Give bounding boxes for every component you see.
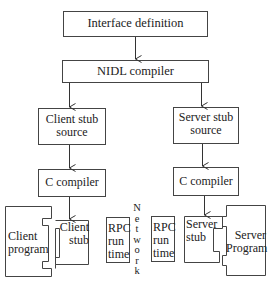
network-letter: t (132, 224, 142, 235)
server-c-compiler-label: C compiler (173, 175, 239, 188)
interface-definition-label: Interface definition (63, 17, 208, 30)
label-line: Program (226, 242, 266, 255)
client-stub-source-label: Client stub source (38, 113, 106, 139)
network-label: N e t w o r k (132, 203, 142, 277)
label-line: program (8, 243, 48, 256)
label-line: time (108, 248, 130, 261)
server-stub-source-label: Server stub source (173, 111, 239, 137)
server-stub-label: Server stub (186, 218, 222, 244)
server-rpc-runtime-label: RPC run time (153, 221, 175, 260)
network-letter: k (132, 266, 142, 277)
network-letter: o (132, 245, 142, 256)
server-program-label: Server Program (226, 229, 266, 255)
client-rpc-runtime-label: RPC run time (108, 222, 130, 261)
client-c-compiler-label: C compiler (38, 176, 106, 189)
client-stub-label: Client stub (58, 221, 89, 247)
client-program-label: Client program (8, 230, 48, 256)
network-letter: N (132, 203, 142, 214)
label-line: stub (58, 234, 89, 247)
nidl-compiler-label: NIDL compiler (62, 65, 209, 78)
label-line: stub (186, 231, 222, 244)
label-line: source (38, 126, 106, 139)
label-line: source (173, 124, 239, 137)
label-line: time (153, 247, 175, 260)
